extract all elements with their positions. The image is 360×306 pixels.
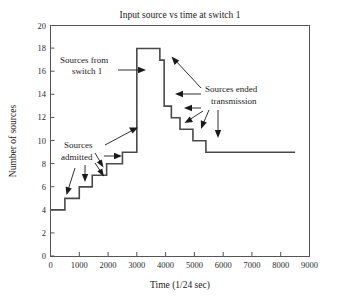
annotation-sources-ended-transmission-line2: transmission bbox=[211, 96, 257, 106]
annotation-sources-from-switch-1-line1: Sources from bbox=[60, 55, 108, 65]
x-axis-label: Time (1/24 sec) bbox=[150, 280, 210, 291]
x-tick-label-0: 0 bbox=[48, 260, 52, 270]
y-tick-label-20: 20 bbox=[38, 21, 47, 31]
x-tick-label-3000: 3000 bbox=[128, 260, 145, 270]
x-tick-label-1000: 1000 bbox=[71, 260, 88, 270]
y-axis-label: Number of sources bbox=[8, 105, 18, 178]
y-tick-label-0: 0 bbox=[42, 251, 46, 261]
x-tick-label-5000: 5000 bbox=[186, 260, 203, 270]
arrowhead-icon bbox=[82, 174, 88, 182]
x-tick-marks bbox=[51, 252, 310, 256]
annotation-sources-from-switch-1-line2: switch 1 bbox=[72, 66, 102, 76]
annotation-sources-admitted-line2: admitted bbox=[61, 152, 93, 162]
input-source-vs-time-chart: 0 2 4 6 8 10 12 14 16 18 20 0 1000 2000 … bbox=[0, 0, 360, 306]
annotation-sources-ended-transmission: Sources ended transmission bbox=[172, 57, 258, 139]
arrowhead-icon bbox=[185, 117, 194, 124]
y-tick-label-4: 4 bbox=[42, 205, 47, 215]
annotation-sources-admitted-line1: Sources bbox=[64, 140, 93, 150]
y-tick-label-12: 12 bbox=[38, 112, 47, 122]
x-tick-label-7000: 7000 bbox=[243, 260, 260, 270]
chart-title: Input source vs time at switch 1 bbox=[120, 10, 241, 20]
arrowhead-icon bbox=[175, 91, 183, 97]
y-tick-label-2: 2 bbox=[42, 228, 46, 238]
x-tick-label-9000: 9000 bbox=[301, 260, 318, 270]
y-tick-label-6: 6 bbox=[42, 182, 46, 192]
y-tick-label-10: 10 bbox=[38, 136, 47, 146]
arrowhead-icon bbox=[138, 67, 146, 73]
annotation-sources-ended-transmission-line1: Sources ended bbox=[205, 84, 258, 94]
arrowhead-icon bbox=[114, 153, 122, 159]
y-tick-label-16: 16 bbox=[38, 66, 47, 76]
y-tick-label-8: 8 bbox=[42, 159, 46, 169]
arrowhead-icon bbox=[97, 159, 104, 167]
annotation-sources-from-switch-1: Sources from switch 1 bbox=[60, 55, 146, 76]
y-tick-label-18: 18 bbox=[38, 43, 47, 53]
arrowhead-icon bbox=[66, 187, 72, 195]
chart-figure: 0 2 4 6 8 10 12 14 16 18 20 0 1000 2000 … bbox=[0, 0, 360, 306]
annotation-sources-admitted: Sources admitted bbox=[61, 128, 138, 196]
x-tick-label-8000: 8000 bbox=[272, 260, 289, 270]
arrowhead-icon bbox=[184, 105, 192, 111]
y-tick-marks bbox=[51, 26, 55, 257]
arrowhead-icon bbox=[215, 130, 221, 138]
y-tick-label-14: 14 bbox=[38, 89, 47, 99]
x-tick-label-2000: 2000 bbox=[100, 260, 117, 270]
x-tick-label-4000: 4000 bbox=[157, 260, 174, 270]
x-tick-label-6000: 6000 bbox=[215, 260, 232, 270]
arrowhead-icon bbox=[201, 120, 207, 129]
